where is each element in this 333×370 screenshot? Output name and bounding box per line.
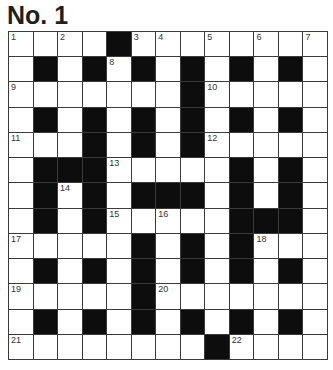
grid-cell[interactable]	[205, 259, 229, 283]
grid-cell[interactable]: 6	[254, 32, 278, 56]
grid-cell[interactable]	[156, 259, 180, 283]
grid-cell[interactable]	[279, 234, 303, 258]
grid-cell[interactable]	[303, 108, 327, 132]
grid-cell[interactable]	[181, 32, 205, 56]
grid-cell[interactable]	[254, 57, 278, 81]
grid-cell[interactable]	[303, 183, 327, 207]
grid-cell[interactable]: 11	[9, 133, 33, 157]
grid-cell[interactable]	[303, 310, 327, 334]
grid-cell[interactable]	[83, 234, 107, 258]
grid-cell[interactable]	[58, 133, 82, 157]
grid-cell[interactable]	[107, 284, 131, 308]
grid-cell[interactable]: 15	[107, 209, 131, 233]
grid-cell[interactable]	[58, 284, 82, 308]
grid-cell[interactable]	[156, 82, 180, 106]
grid-cell[interactable]	[9, 310, 33, 334]
grid-cell[interactable]: 4	[156, 32, 180, 56]
grid-cell[interactable]	[58, 57, 82, 81]
grid-cell[interactable]	[34, 133, 58, 157]
grid-cell[interactable]	[205, 108, 229, 132]
grid-cell[interactable]	[83, 32, 107, 56]
grid-cell[interactable]	[107, 108, 131, 132]
grid-cell[interactable]	[279, 82, 303, 106]
grid-cell[interactable]	[303, 133, 327, 157]
grid-cell[interactable]	[58, 310, 82, 334]
grid-cell[interactable]: 9	[9, 82, 33, 106]
grid-cell[interactable]: 10	[205, 82, 229, 106]
grid-cell[interactable]	[156, 133, 180, 157]
grid-cell[interactable]: 18	[254, 234, 278, 258]
grid-cell[interactable]: 17	[9, 234, 33, 258]
grid-cell[interactable]	[156, 108, 180, 132]
grid-cell[interactable]	[254, 259, 278, 283]
grid-cell[interactable]	[156, 158, 180, 182]
grid-cell[interactable]	[303, 57, 327, 81]
grid-cell[interactable]	[303, 158, 327, 182]
grid-cell[interactable]	[279, 335, 303, 359]
grid-cell[interactable]	[254, 183, 278, 207]
grid-cell[interactable]	[107, 234, 131, 258]
grid-cell[interactable]	[107, 259, 131, 283]
grid-cell[interactable]	[107, 82, 131, 106]
grid-cell[interactable]: 22	[230, 335, 254, 359]
grid-cell[interactable]	[205, 310, 229, 334]
grid-cell[interactable]	[132, 82, 156, 106]
grid-cell[interactable]: 19	[9, 284, 33, 308]
grid-cell[interactable]: 20	[156, 284, 180, 308]
grid-cell[interactable]	[107, 133, 131, 157]
grid-cell[interactable]	[254, 133, 278, 157]
grid-cell[interactable]	[230, 32, 254, 56]
grid-cell[interactable]	[9, 158, 33, 182]
grid-cell[interactable]	[230, 82, 254, 106]
grid-cell[interactable]: 13	[107, 158, 131, 182]
grid-cell[interactable]	[205, 183, 229, 207]
grid-cell[interactable]	[181, 209, 205, 233]
grid-cell[interactable]	[9, 57, 33, 81]
grid-cell[interactable]	[58, 82, 82, 106]
grid-cell[interactable]	[205, 284, 229, 308]
grid-cell[interactable]	[132, 158, 156, 182]
grid-cell[interactable]: 3	[132, 32, 156, 56]
grid-cell[interactable]	[230, 284, 254, 308]
grid-cell[interactable]	[58, 335, 82, 359]
grid-cell[interactable]: 2	[58, 32, 82, 56]
grid-cell[interactable]	[34, 32, 58, 56]
grid-cell[interactable]	[156, 234, 180, 258]
grid-cell[interactable]	[303, 209, 327, 233]
grid-cell[interactable]	[254, 158, 278, 182]
grid-cell[interactable]	[254, 335, 278, 359]
grid-cell[interactable]	[303, 335, 327, 359]
grid-cell[interactable]	[303, 259, 327, 283]
grid-cell[interactable]	[254, 310, 278, 334]
grid-cell[interactable]	[9, 209, 33, 233]
grid-cell[interactable]	[9, 108, 33, 132]
grid-cell[interactable]: 1	[9, 32, 33, 56]
grid-cell[interactable]	[132, 335, 156, 359]
grid-cell[interactable]: 5	[205, 32, 229, 56]
grid-cell[interactable]	[58, 108, 82, 132]
grid-cell[interactable]	[205, 209, 229, 233]
grid-cell[interactable]	[34, 335, 58, 359]
grid-cell[interactable]	[279, 133, 303, 157]
grid-cell[interactable]	[181, 335, 205, 359]
grid-cell[interactable]	[303, 234, 327, 258]
grid-cell[interactable]	[181, 284, 205, 308]
grid-cell[interactable]	[181, 158, 205, 182]
grid-cell[interactable]	[83, 335, 107, 359]
grid-cell[interactable]	[34, 234, 58, 258]
grid-cell[interactable]	[107, 183, 131, 207]
grid-cell[interactable]	[254, 82, 278, 106]
grid-cell[interactable]: 7	[303, 32, 327, 56]
grid-cell[interactable]	[34, 284, 58, 308]
grid-cell[interactable]	[34, 82, 58, 106]
grid-cell[interactable]: 14	[58, 183, 82, 207]
grid-cell[interactable]	[254, 284, 278, 308]
grid-cell[interactable]	[156, 335, 180, 359]
grid-cell[interactable]: 16	[156, 209, 180, 233]
grid-cell[interactable]	[83, 284, 107, 308]
grid-cell[interactable]	[156, 310, 180, 334]
grid-cell[interactable]	[230, 133, 254, 157]
grid-cell[interactable]	[58, 209, 82, 233]
grid-cell[interactable]	[58, 259, 82, 283]
grid-cell[interactable]	[132, 209, 156, 233]
